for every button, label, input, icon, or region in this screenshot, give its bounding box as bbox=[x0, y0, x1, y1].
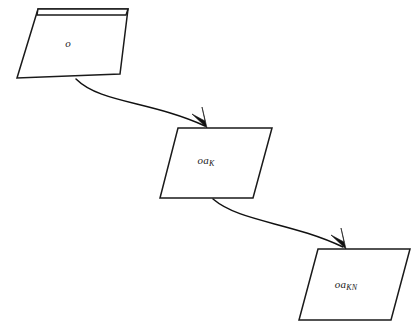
node-oa-k-label-base: oa bbox=[198, 154, 210, 166]
node-o-body bbox=[17, 9, 128, 78]
flow-diagram: o oaK oaKN bbox=[0, 0, 415, 335]
node-o-label: o bbox=[65, 37, 71, 49]
node-o[interactable]: o bbox=[17, 9, 128, 78]
edge-oak-to-oakn-arrowhead bbox=[331, 228, 346, 249]
node-oa-kn-label-subscript: KN bbox=[345, 283, 358, 292]
edge-oak-to-oakn-line bbox=[213, 199, 343, 247]
node-o-stack-lid bbox=[37, 9, 128, 15]
diagram-canvas-container: o oaK oaKN bbox=[0, 0, 415, 335]
edge-o-to-oak-arrowhead bbox=[192, 107, 207, 128]
node-oa-k-label-subscript: K bbox=[208, 159, 215, 168]
node-oa-k-body bbox=[160, 128, 272, 198]
node-o-label-base: o bbox=[65, 37, 71, 49]
edge-o-to-oak bbox=[76, 79, 207, 128]
node-oa-kn[interactable]: oaKN bbox=[299, 249, 410, 320]
node-oa-k[interactable]: oaK bbox=[160, 128, 272, 198]
node-oa-kn-label-base: oa bbox=[335, 278, 347, 290]
edge-oak-to-oakn bbox=[213, 199, 346, 249]
edge-o-to-oak-line bbox=[76, 79, 205, 126]
